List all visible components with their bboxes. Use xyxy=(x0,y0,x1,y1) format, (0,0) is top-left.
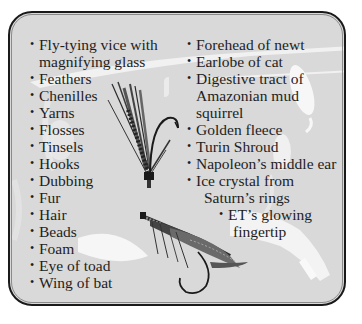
list-item: •Digestive tract of xyxy=(188,70,336,87)
list-item: •Golden fleece xyxy=(188,121,336,138)
list-item: •Flosses xyxy=(31,121,158,138)
bullet-icon: • xyxy=(30,257,34,274)
list-item-continuation: magnifying glass xyxy=(31,53,158,70)
list-item-continuation: Saturn’s rings xyxy=(188,189,336,206)
list-item: •Beads xyxy=(31,223,158,240)
list-item: •Forehead of newt xyxy=(188,36,336,53)
list-item: •Dubbing xyxy=(31,172,158,189)
checklist-panel: •Fly-tying vice with magnifying glass •F… xyxy=(8,11,346,306)
bullet-icon: • xyxy=(187,172,191,189)
bullet-icon: • xyxy=(30,70,34,87)
list-item: •Eye of toad xyxy=(31,257,158,274)
bullet-icon: • xyxy=(30,87,34,104)
list-item: •Tinsels xyxy=(31,138,158,155)
list-item: •Earlobe of cat xyxy=(188,53,336,70)
bullet-icon: • xyxy=(30,189,34,206)
bullet-icon: • xyxy=(30,155,34,172)
list-item: •Napoleon’s middle ear xyxy=(188,155,336,172)
bullet-icon: • xyxy=(30,121,34,138)
list-item: •Turin Shroud xyxy=(188,138,336,155)
bullet-icon: • xyxy=(187,70,191,87)
list-item: •Fly-tying vice with xyxy=(31,36,158,53)
bullet-icon: • xyxy=(30,223,34,240)
list-item-continuation: squirrel xyxy=(188,104,336,121)
bullet-icon: • xyxy=(30,172,34,189)
bullet-icon: • xyxy=(30,104,34,121)
list-item: •Yarns xyxy=(31,104,158,121)
list-item: •Hooks xyxy=(31,155,158,172)
list-item: •Wing of bat xyxy=(31,274,158,291)
list-item: •Foam xyxy=(31,240,158,257)
bullet-icon: • xyxy=(30,36,34,53)
list-item: •Fur xyxy=(31,189,158,206)
bullet-icon: • xyxy=(30,240,34,257)
bullet-icon: • xyxy=(187,36,191,53)
bullet-icon: • xyxy=(30,206,34,223)
supply-list-right: •Forehead of newt •Earlobe of cat •Diges… xyxy=(188,36,336,240)
supply-list-left: •Fly-tying vice with magnifying glass •F… xyxy=(31,36,158,291)
list-item: •Hair xyxy=(31,206,158,223)
bullet-icon: • xyxy=(187,121,191,138)
bullet-icon: • xyxy=(30,274,34,291)
bullet-icon: • xyxy=(187,155,191,172)
list-item: •Chenilles xyxy=(31,87,158,104)
list-item: •Ice crystal from xyxy=(188,172,336,189)
bullet-icon: • xyxy=(219,206,223,223)
list-item: •Feathers xyxy=(31,70,158,87)
bullet-icon: • xyxy=(187,53,191,70)
list-item-continuation: Amazonian mud xyxy=(188,87,336,104)
bullet-icon: • xyxy=(30,138,34,155)
sub-list-item-continuation: fingertip xyxy=(220,223,336,240)
sub-list-item: •ET’s glowing xyxy=(220,206,336,223)
bullet-icon: • xyxy=(187,138,191,155)
